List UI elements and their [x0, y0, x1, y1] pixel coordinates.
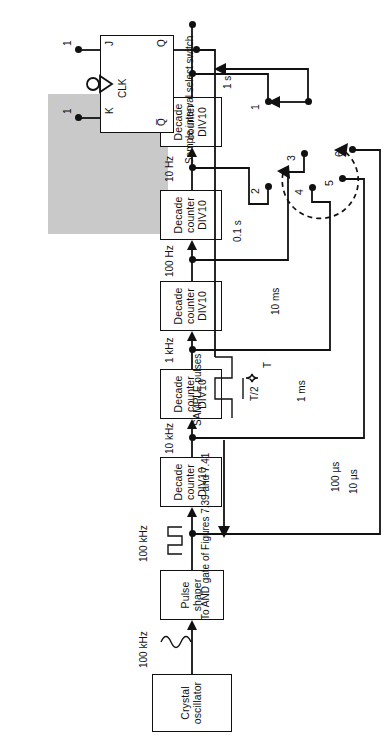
- figure-canvas: Crystal oscillator Pulse shaper Decade c…: [0, 0, 386, 750]
- label-half-period: T/2: [249, 387, 261, 401]
- sample-pulses-line2: pulses: [192, 354, 203, 383]
- and-gate-destination-line3: of Figures 7.39: [200, 494, 211, 561]
- circuit-diagram: Crystal oscillator Pulse shaper Decade c…: [0, 0, 386, 750]
- label-period: T: [262, 362, 274, 368]
- sample-pulses-label: SAMPLE pulses: [192, 354, 204, 426]
- sample-pulses-line1: SAMPLE: [192, 385, 203, 426]
- and-gate-destination-line2: AND gate: [200, 564, 211, 607]
- and-gate-destination-line1: To: [200, 609, 211, 620]
- and-gate-destination: To AND gate of Figures 7.39 and 7.41: [200, 453, 212, 620]
- and-gate-destination-line4: and 7.41: [200, 453, 211, 492]
